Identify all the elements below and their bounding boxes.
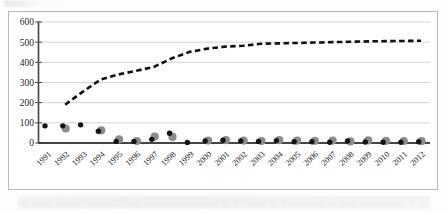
x-tick-label: 1991 <box>35 150 53 168</box>
data-point-black <box>416 139 421 144</box>
data-point-black <box>345 138 350 143</box>
data-point-black <box>238 138 243 143</box>
data-point-black <box>220 137 225 142</box>
cumulative-dashed-line <box>65 41 421 105</box>
x-tick-label: 1995 <box>106 150 124 168</box>
figure-container: 0100200300400500600 19911992199319941995… <box>0 0 448 213</box>
x-tick-label: 1998 <box>159 150 177 168</box>
data-point-black <box>398 139 403 144</box>
data-point-black <box>327 139 332 144</box>
data-point-black <box>363 139 368 144</box>
x-tick-label: 2010 <box>373 150 391 168</box>
x-tick-label: 2012 <box>408 150 426 168</box>
data-point-black <box>202 138 207 143</box>
data-point-black <box>42 123 47 128</box>
data-point-black <box>167 131 172 136</box>
x-tick-label: 2006 <box>302 150 320 168</box>
x-tick-label: 1999 <box>177 150 195 168</box>
x-tick-label: 1997 <box>142 150 160 168</box>
y-tick-label: 400 <box>20 58 35 68</box>
y-tick-label: 500 <box>20 38 35 48</box>
y-tick-label: 300 <box>20 78 35 88</box>
x-tick-label: 2009 <box>355 150 373 168</box>
data-point-black <box>291 139 296 144</box>
y-tick-label: 100 <box>20 118 35 128</box>
data-point-black <box>309 139 314 144</box>
x-tick-label: 1993 <box>70 150 88 168</box>
chart-plot-area: 0100200300400500600 19911992199319941995… <box>0 0 448 213</box>
y-tick-label: 0 <box>29 138 34 148</box>
black-dots-series <box>42 122 421 145</box>
x-tick-label: 2003 <box>248 150 266 168</box>
data-point-black <box>185 140 190 145</box>
data-point-black <box>274 138 279 143</box>
y-tick-label: 200 <box>20 98 35 108</box>
x-tick-label: 2008 <box>337 150 355 168</box>
data-point-black <box>78 122 83 127</box>
x-axis-tick-labels: 1991199219931994199519961997199819992000… <box>35 149 427 167</box>
data-point-black <box>96 129 101 134</box>
x-tick-label: 1994 <box>88 149 107 167</box>
data-point-black <box>113 139 118 144</box>
x-tick-label: 2004 <box>266 149 285 167</box>
data-point-black <box>256 139 261 144</box>
x-tick-label: 2002 <box>231 150 249 168</box>
x-tick-label: 2000 <box>195 150 213 168</box>
data-point-black <box>149 137 154 142</box>
x-tick-label: 1996 <box>124 150 142 168</box>
x-tick-label: 2001 <box>213 150 231 168</box>
x-tick-label: 2007 <box>319 150 337 168</box>
data-point-black <box>380 139 385 144</box>
data-point-black <box>131 139 136 144</box>
x-tick-label: 2011 <box>391 150 409 168</box>
x-tick-label: 1992 <box>53 150 71 168</box>
data-point-black <box>60 123 65 128</box>
x-tick-label: 2005 <box>284 150 302 168</box>
y-tick-label: 600 <box>20 17 35 27</box>
